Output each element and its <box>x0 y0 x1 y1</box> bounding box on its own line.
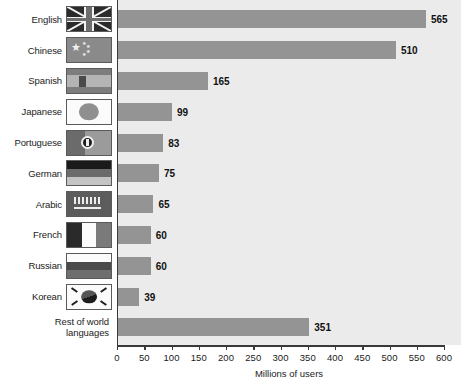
flag-portugal-icon <box>66 130 112 156</box>
x-tick-label: 150 <box>191 352 207 363</box>
category-row: Rest of world languages <box>0 312 117 343</box>
x-tick-label: 500 <box>382 352 398 363</box>
x-tick-label: 200 <box>218 352 234 363</box>
category-label: German <box>28 168 66 179</box>
flag-united-kingdom-icon <box>66 6 112 32</box>
bar <box>118 288 139 306</box>
bar-value-label: 165 <box>213 77 230 87</box>
bar <box>118 226 151 244</box>
bar <box>118 164 159 182</box>
plot-area: 56551016599837565606039351 <box>117 0 461 345</box>
bar <box>118 134 163 152</box>
bar <box>118 318 309 336</box>
x-tick-label: 550 <box>409 352 425 363</box>
x-tick <box>308 345 309 350</box>
x-tick <box>226 345 227 350</box>
flag-china-icon: ★★★★★ <box>66 37 112 63</box>
category-label: Portuguese <box>14 137 66 148</box>
bar-value-label: 39 <box>144 293 155 303</box>
category-row: Portuguese <box>0 127 117 158</box>
category-label: Chinese <box>28 45 66 56</box>
x-tick <box>253 345 254 350</box>
category-row: Japanese <box>0 96 117 127</box>
x-tick-label: 600 <box>436 352 452 363</box>
bar-value-label: 60 <box>156 231 167 241</box>
bar-value-label: 65 <box>158 200 169 210</box>
flag-japan-icon <box>66 99 112 125</box>
x-axis-title: Millions of users <box>117 368 461 379</box>
category-label: French <box>33 229 66 240</box>
category-label: English <box>32 14 66 25</box>
x-tick <box>362 345 363 350</box>
flag-spain-icon <box>66 68 112 94</box>
x-tick <box>199 345 200 350</box>
x-tick <box>335 345 336 350</box>
category-row: Arabic <box>0 189 117 220</box>
bar <box>118 10 426 28</box>
x-tick-label: 0 <box>114 352 119 363</box>
language-users-bar-chart: EnglishChinese★★★★★SpanishJapanesePortug… <box>0 0 461 386</box>
x-tick-label: 350 <box>300 352 316 363</box>
flag-france-icon <box>66 222 112 248</box>
bar-value-label: 99 <box>177 108 188 118</box>
x-tick <box>281 345 282 350</box>
category-row: Russian <box>0 250 117 281</box>
x-tick-label: 300 <box>273 352 289 363</box>
x-tick-label: 50 <box>139 352 150 363</box>
bar <box>118 41 396 59</box>
category-row: Spanish <box>0 66 117 97</box>
bar-value-label: 75 <box>164 169 175 179</box>
x-tick <box>390 345 391 350</box>
bar <box>118 257 151 275</box>
x-tick-label: 400 <box>327 352 343 363</box>
category-row: German <box>0 158 117 189</box>
bar-value-label: 83 <box>168 139 179 149</box>
bar-value-label: 565 <box>431 15 448 25</box>
bar-value-label: 60 <box>156 262 167 272</box>
category-row: Korean <box>0 281 117 312</box>
flag-saudi-arabia-icon <box>66 191 112 217</box>
x-tick <box>144 345 145 350</box>
x-tick-label: 250 <box>245 352 261 363</box>
bar <box>118 103 172 121</box>
bar <box>118 195 153 213</box>
category-row: English <box>0 4 117 35</box>
bar-value-label: 510 <box>401 46 418 56</box>
bar <box>118 72 208 90</box>
category-row: Chinese★★★★★ <box>0 35 117 66</box>
x-tick <box>417 345 418 350</box>
category-label: Spanish <box>28 75 66 86</box>
category-label: Korean <box>32 291 66 302</box>
category-label: Arabic <box>36 199 66 210</box>
x-tick <box>172 345 173 350</box>
x-tick <box>117 345 118 350</box>
flag-south-korea-icon <box>66 284 112 310</box>
x-tick-label: 450 <box>354 352 370 363</box>
x-tick <box>444 345 445 350</box>
flag-russia-icon <box>66 253 112 279</box>
bar-value-label: 351 <box>314 323 331 333</box>
category-row: French <box>0 220 117 251</box>
category-gutter: EnglishChinese★★★★★SpanishJapanesePortug… <box>0 0 117 345</box>
flag-germany-icon <box>66 160 112 186</box>
category-label: Rest of world languages <box>55 316 117 338</box>
category-label: Russian <box>28 260 66 271</box>
category-label: Japanese <box>22 106 66 117</box>
x-tick-label: 100 <box>164 352 180 363</box>
